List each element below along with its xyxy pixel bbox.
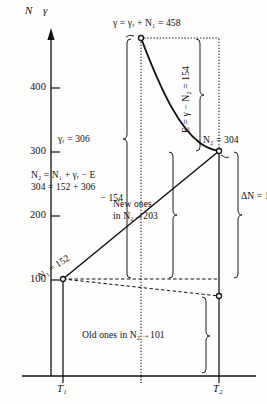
balance-equation-line-2: 304 = 152 + 306 (31, 182, 123, 194)
node-N1 (61, 277, 66, 282)
old-ones-brace (202, 297, 210, 373)
old-ones-note: Old ones in N₂→101 (82, 329, 165, 341)
balance-equation-block: N₂ = N₁ + γᵣ − E 304 = 152 + 306 − 154 (31, 170, 123, 205)
x-tick-label-T2: T₂ (213, 383, 223, 395)
new-ones-note-line-2: in N₂→203 (113, 210, 158, 222)
N2-label: N₂ = 304 (203, 134, 239, 145)
new-ones-brace (169, 152, 177, 278)
y-tick-label-200: 200 (16, 209, 46, 221)
x-tick-marks (63, 376, 219, 383)
y-tick-label-300: 300 (16, 145, 46, 157)
balance-equation-line-1: N₂ = N₁ + γᵣ − E (31, 170, 123, 182)
delta-N-brace (234, 152, 242, 278)
top-equation-label: γ = γᵣ + N₁ = 458 (113, 17, 181, 28)
gamma-r-label: γᵣ = 306 (58, 133, 90, 144)
node-gamma-total (139, 36, 144, 41)
x-tick-label-T1: T₁ (57, 383, 67, 395)
node-N2 (217, 149, 222, 154)
diagram-figure: N γ 400 300 200 100 T₁ T₂ γ = γᵣ + N₁ = … (0, 0, 267, 404)
gamma-r-brace (123, 39, 131, 278)
new-ones-note-line-1: New ones (113, 198, 158, 210)
y-axis-name-gamma: γ (43, 4, 47, 17)
old-ones-dashed-line (63, 279, 219, 296)
balance-equation-line-3: − 154 (31, 193, 123, 205)
y-axis-name-N: N (25, 4, 32, 17)
new-ones-note: New ones in N₂→203 (113, 198, 158, 222)
N2-label-pointer (221, 155, 229, 158)
y-tick-label-400: 400 (16, 81, 46, 93)
E-vertical-label: E = γ − N₂ = 154 (180, 66, 191, 133)
delta-N-label: ΔN = 152 (241, 190, 267, 201)
top-label-pointer (126, 35, 134, 37)
node-old-ones (217, 294, 222, 299)
y-axis-arrowhead (47, 28, 54, 40)
